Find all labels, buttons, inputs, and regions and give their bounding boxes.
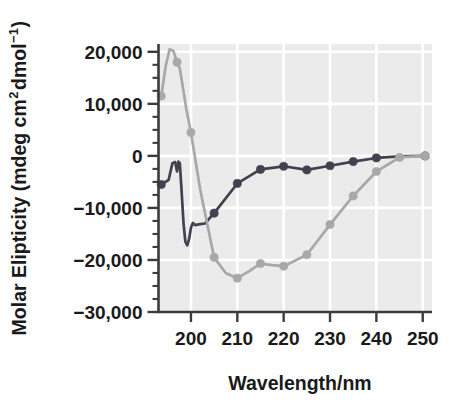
data-point-marker	[421, 152, 429, 160]
data-point-marker	[233, 274, 241, 282]
data-point-marker	[326, 162, 334, 170]
y-tick-label: −30,000	[73, 302, 142, 323]
y-axis-title-part-2: dmol	[8, 43, 30, 90]
y-axis-title-part-3: )	[8, 21, 30, 28]
data-point-marker	[210, 253, 218, 261]
data-point-marker	[349, 158, 357, 166]
y-axis-title-part-1: Molar Elipticity (mdeg cm	[8, 99, 30, 335]
x-axis-tick-labels: 200210220230240250	[175, 328, 438, 349]
data-point-marker	[280, 162, 288, 170]
y-tick-label: −20,000	[73, 250, 142, 271]
data-point-marker	[256, 165, 264, 173]
data-point-marker	[187, 128, 195, 136]
data-point-marker	[372, 154, 380, 162]
data-point-marker	[173, 58, 181, 66]
data-point-marker	[372, 167, 380, 175]
data-point-marker	[210, 209, 218, 217]
data-point-marker	[395, 153, 403, 161]
y-tick-label: 10,000	[84, 94, 142, 115]
x-tick-label: 250	[407, 328, 439, 349]
data-point-marker	[349, 192, 357, 200]
y-axis-title-superscript-minus-1: −1	[6, 28, 21, 43]
data-point-marker	[303, 166, 311, 174]
cd-spectrum-figure: 200210220230240250 20,00010,0000−10,000−…	[0, 0, 450, 404]
y-axis-title: Molar Elipticity (mdeg cm 2 dmol −1 )	[6, 21, 30, 335]
x-tick-label: 200	[175, 328, 207, 349]
data-point-marker	[303, 251, 311, 259]
chart-canvas: 200210220230240250 20,00010,0000−10,000−…	[0, 0, 450, 404]
y-tick-label: 0	[132, 146, 143, 167]
y-tick-label: −10,000	[73, 198, 142, 219]
x-tick-label: 210	[221, 328, 253, 349]
x-tick-label: 230	[314, 328, 346, 349]
data-point-marker	[233, 179, 241, 187]
data-point-marker	[256, 260, 264, 268]
y-axis-title-superscript-2: 2	[6, 91, 21, 98]
x-tick-label: 240	[361, 328, 393, 349]
data-point-marker	[326, 220, 334, 228]
y-tick-label: 20,000	[84, 42, 142, 63]
data-point-marker	[280, 262, 288, 270]
x-tick-label: 220	[268, 328, 300, 349]
x-axis-title: Wavelength/nm	[228, 372, 371, 394]
y-axis-tick-labels: 20,00010,0000−10,000−20,000−30,000	[73, 42, 142, 323]
